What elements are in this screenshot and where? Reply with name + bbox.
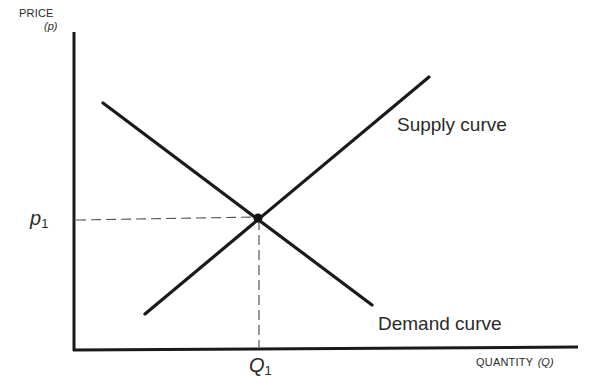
x-axis-label: QUANTITY xyxy=(476,356,533,368)
supply-curve-label: Supply curve xyxy=(397,114,507,136)
x-axis-label-group: QUANTITY (Q) xyxy=(476,352,554,370)
equilibrium-price-label: p1 xyxy=(30,207,48,231)
demand-curve xyxy=(103,103,372,305)
demand-curve-label: Demand curve xyxy=(378,313,502,335)
y-axis-label: PRICE xyxy=(19,7,54,19)
price-guide-line xyxy=(76,217,256,220)
y-axis-symbol: (p) xyxy=(44,20,57,32)
equilibrium-quantity-label: Q1 xyxy=(249,354,272,378)
x-axis xyxy=(73,347,578,350)
equilibrium-point xyxy=(254,214,263,223)
supply-demand-diagram xyxy=(0,0,594,391)
supply-curve xyxy=(145,77,429,314)
x-axis-symbol: (Q) xyxy=(538,356,554,368)
